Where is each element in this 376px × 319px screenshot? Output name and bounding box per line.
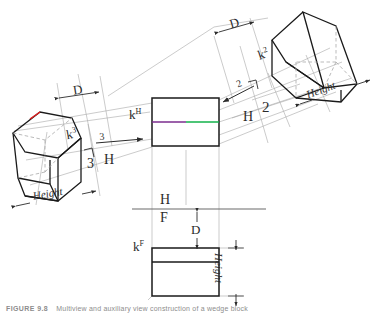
- dimension-height-front: [228, 240, 244, 306]
- label-k3: k3: [65, 126, 78, 141]
- figure-canvas: kH kF k2 k3 H F 3 H H 2 3 2 D D D Heig: [0, 0, 376, 319]
- drawing-svg: [0, 0, 376, 319]
- figure-caption-label: FIGURE 9.8: [6, 305, 48, 312]
- figure-caption-text: Multiview and auxiliary view constructio…: [56, 305, 248, 312]
- fold-label-3: 3: [87, 157, 94, 171]
- view-kh-rectangle: [152, 98, 219, 146]
- fold-label-h-upper: H: [160, 193, 170, 207]
- fold-label-h-right-of-3: H: [104, 153, 114, 167]
- figure-caption: FIGURE 9.8 Multiview and auxiliary view …: [6, 305, 248, 312]
- fold-label-2: 2: [262, 100, 270, 115]
- pictorial-k3-accent-edge: [30, 112, 40, 119]
- label-kh: kH: [129, 108, 141, 121]
- view-kf-rectangle: [152, 248, 219, 296]
- dimension-label-d-left: D: [72, 83, 83, 97]
- label-kf: kF: [133, 240, 144, 253]
- dimension-label-d-front: D: [191, 223, 200, 236]
- arrow-label-3: 3: [99, 131, 105, 141]
- perp-symbol-2: [248, 80, 258, 89]
- fold-label-f-lower: F: [160, 211, 168, 225]
- fold-label-h-left-of-2: H: [243, 110, 253, 124]
- dimension-label-height-front: Height: [213, 253, 224, 283]
